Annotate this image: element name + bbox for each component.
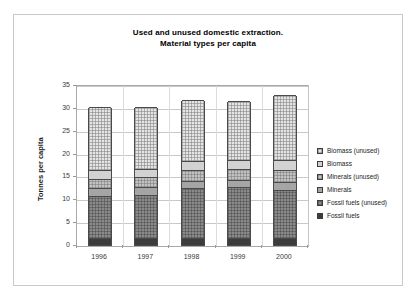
x-tick-label: 1997 <box>125 253 165 260</box>
legend-swatch-icon <box>317 187 323 193</box>
chart-title-line1: Used and unused domestic extraction. <box>14 27 402 38</box>
x-tick-label: 1996 <box>79 253 119 260</box>
bar-segment[interactable] <box>228 160 250 169</box>
x-gridline <box>216 86 217 246</box>
plot-area <box>76 85 309 247</box>
x-gridline <box>262 86 263 246</box>
bar-segment[interactable] <box>182 188 204 237</box>
bar-segment[interactable] <box>135 107 157 169</box>
stacked-bar[interactable] <box>88 108 112 247</box>
stacked-bar[interactable] <box>227 102 251 246</box>
bar-segment[interactable] <box>89 196 111 239</box>
chart-title-line2: Material types per capita <box>14 38 402 49</box>
bar-segment[interactable] <box>182 100 204 161</box>
x-tick-label: 2000 <box>264 253 304 260</box>
y-tick-label: 10 <box>50 195 70 202</box>
legend-item[interactable]: Minerals <box>317 183 387 196</box>
y-tick-label: 30 <box>50 104 70 111</box>
stacked-bar[interactable] <box>273 96 297 246</box>
legend-swatch-icon <box>317 174 323 180</box>
bar-segment[interactable] <box>228 187 250 238</box>
y-tick-label: 35 <box>50 81 70 88</box>
bar-segment[interactable] <box>274 160 296 170</box>
x-tick-mark <box>215 245 216 248</box>
legend-item-label: Minerals (unused) <box>327 173 379 180</box>
y-axis-title: Tonnes per capita <box>36 137 45 201</box>
bar-segment[interactable] <box>228 180 250 187</box>
y-tick-label: 20 <box>50 150 70 157</box>
chart-container: Used and unused domestic extraction. Mat… <box>13 14 403 286</box>
bar-segment[interactable] <box>228 101 250 160</box>
y-tick-mark <box>73 199 76 200</box>
legend-swatch-icon <box>317 161 323 167</box>
y-tick-label: 0 <box>50 241 70 248</box>
bar-segment[interactable] <box>182 161 204 170</box>
bar-segment[interactable] <box>182 170 204 181</box>
bar-segment[interactable] <box>228 169 250 180</box>
y-tick-label: 5 <box>50 218 70 225</box>
bar-segment[interactable] <box>274 190 296 238</box>
legend-swatch-icon <box>317 200 323 206</box>
x-tick-mark <box>307 245 308 248</box>
bar-segment[interactable] <box>135 187 157 195</box>
legend-item-label: Fossil fuels <box>327 212 360 219</box>
y-tick-mark <box>73 108 76 109</box>
legend-swatch-icon <box>317 148 323 154</box>
y-tick-mark <box>73 85 76 86</box>
legend-item[interactable]: Fossil fuels <box>317 209 387 222</box>
bar-segment[interactable] <box>89 179 111 189</box>
y-tick-mark <box>73 154 76 155</box>
y-tick-mark <box>73 222 76 223</box>
x-tick-mark <box>168 245 169 248</box>
bar-segment[interactable] <box>135 195 157 238</box>
legend-item[interactable]: Fossil fuels (unused) <box>317 196 387 209</box>
y-tick-mark <box>73 131 76 132</box>
bar-segment[interactable] <box>182 181 204 189</box>
bar-segment[interactable] <box>274 238 296 245</box>
x-gridline <box>169 86 170 246</box>
y-tick-label: 25 <box>50 127 70 134</box>
x-tick-label: 1999 <box>218 253 258 260</box>
bar-segment[interactable] <box>89 188 111 195</box>
bar-segment[interactable] <box>89 238 111 245</box>
y-tick-mark <box>73 176 76 177</box>
legend-item-label: Biomass (unused) <box>327 147 379 154</box>
legend-item-label: Minerals <box>327 186 352 193</box>
bar-segment[interactable] <box>274 170 296 182</box>
chart-legend: Biomass (unused)BiomassMinerals (unused)… <box>317 144 387 222</box>
x-tick-mark <box>122 245 123 248</box>
legend-item-label: Biomass <box>327 160 352 167</box>
chart-title-block: Used and unused domestic extraction. Mat… <box>14 27 402 49</box>
legend-item-label: Fossil fuels (unused) <box>327 199 387 206</box>
y-gridline <box>77 86 308 87</box>
legend-item[interactable]: Biomass (unused) <box>317 144 387 157</box>
bar-segment[interactable] <box>182 238 204 245</box>
bar-segment[interactable] <box>89 107 111 170</box>
bar-segment[interactable] <box>89 170 111 179</box>
x-tick-mark <box>261 245 262 248</box>
legend-item[interactable]: Minerals (unused) <box>317 170 387 183</box>
x-gridline <box>123 86 124 246</box>
x-tick-label: 1998 <box>172 253 212 260</box>
bar-segment[interactable] <box>228 238 250 245</box>
stacked-bar[interactable] <box>181 101 205 246</box>
bar-segment[interactable] <box>135 169 157 178</box>
x-tick-mark <box>76 245 77 248</box>
y-tick-label: 15 <box>50 172 70 179</box>
legend-item[interactable]: Biomass <box>317 157 387 170</box>
stacked-bar[interactable] <box>134 108 158 247</box>
bar-segment[interactable] <box>135 177 157 187</box>
bar-segment[interactable] <box>135 238 157 245</box>
bar-segment[interactable] <box>274 182 296 189</box>
legend-swatch-icon <box>317 213 323 219</box>
bar-segment[interactable] <box>274 95 296 160</box>
